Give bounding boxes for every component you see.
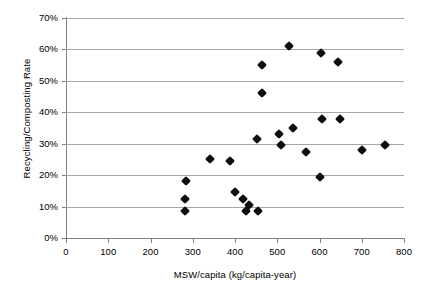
- gridline-y-10: [66, 207, 404, 208]
- y-tick-label-50: 50%: [8, 76, 58, 86]
- data-point: [380, 140, 390, 150]
- x-tick-label-400: 400: [215, 247, 255, 257]
- data-point: [288, 123, 298, 133]
- y-tick-label-10: 10%: [8, 202, 58, 212]
- gridline-y-50: [66, 81, 404, 82]
- data-point: [230, 187, 240, 197]
- scatter-chart: Recycling/Composting Rate MSW/capita (kg…: [0, 0, 440, 302]
- data-point: [205, 154, 215, 164]
- data-point: [315, 172, 325, 182]
- x-tick-label-800: 800: [384, 247, 424, 257]
- data-point: [301, 147, 311, 157]
- x-tick-mark-300: [193, 239, 194, 243]
- x-tick-label-200: 200: [131, 247, 171, 257]
- data-point: [335, 114, 345, 124]
- y-tick-label-0: 0%: [8, 233, 58, 243]
- data-point: [180, 206, 190, 216]
- data-point: [180, 194, 190, 204]
- gridline-y-20: [66, 175, 404, 176]
- x-tick-label-100: 100: [88, 247, 128, 257]
- x-tick-label-300: 300: [173, 247, 213, 257]
- y-tick-label-40: 40%: [8, 107, 58, 117]
- y-tick-label-20: 20%: [8, 170, 58, 180]
- x-tick-label-700: 700: [342, 247, 382, 257]
- data-point: [317, 114, 327, 124]
- x-tick-mark-700: [362, 239, 363, 243]
- x-tick-label-0: 0: [46, 247, 86, 257]
- x-tick-label-500: 500: [257, 247, 297, 257]
- x-tick-mark-500: [277, 239, 278, 243]
- data-point: [276, 140, 286, 150]
- gridline-y-60: [66, 49, 404, 50]
- x-tick-mark-0: [66, 239, 67, 243]
- x-axis-title: MSW/capita (kg/capita-year): [66, 269, 404, 280]
- data-point: [274, 129, 284, 139]
- x-tick-mark-600: [320, 239, 321, 243]
- data-point: [252, 134, 262, 144]
- y-tick-label-60: 60%: [8, 44, 58, 54]
- x-tick-mark-200: [151, 239, 152, 243]
- data-point: [257, 60, 267, 70]
- data-point: [333, 57, 343, 67]
- plot-area: [66, 18, 404, 238]
- gridline-y-30: [66, 144, 404, 145]
- x-tick-label-600: 600: [300, 247, 340, 257]
- y-tick-label-30: 30%: [8, 139, 58, 149]
- gridline-y-70: [66, 18, 404, 19]
- y-tick-label-70: 70%: [8, 13, 58, 23]
- data-point: [258, 88, 268, 98]
- x-tick-mark-100: [108, 239, 109, 243]
- data-point: [253, 206, 263, 216]
- data-point: [225, 156, 235, 166]
- data-point: [357, 145, 367, 155]
- x-tick-mark-800: [404, 239, 405, 243]
- x-tick-mark-400: [235, 239, 236, 243]
- y-axis-title: Recycling/Composting Rate: [21, 29, 32, 209]
- gridline-y-0: [66, 238, 404, 239]
- gridline-y-40: [66, 112, 404, 113]
- data-point: [181, 176, 191, 186]
